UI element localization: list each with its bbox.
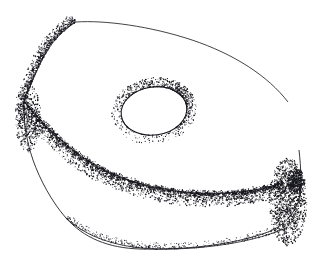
artifact-drawing-svg	[0, 0, 315, 262]
artifact-illustration	[0, 0, 315, 262]
